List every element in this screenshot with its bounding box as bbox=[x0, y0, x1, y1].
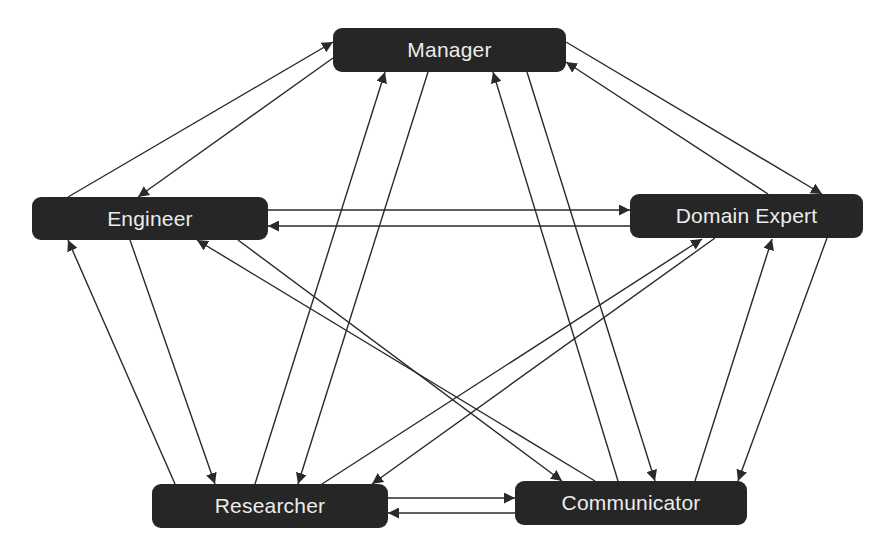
node-manager: Manager bbox=[333, 28, 566, 72]
communication-network-diagram: Manager Engineer Domain Expert Researche… bbox=[0, 0, 888, 556]
node-label-manager: Manager bbox=[407, 38, 491, 62]
edge-domain-expert-to-manager bbox=[566, 62, 768, 194]
node-label-communicator: Communicator bbox=[562, 491, 701, 515]
edge-engineer-to-researcher bbox=[130, 240, 215, 484]
edge-communicator-to-domain-expert bbox=[695, 239, 772, 481]
edge-manager-to-engineer bbox=[138, 58, 333, 197]
edge-manager-to-domain-expert bbox=[566, 42, 822, 194]
edge-researcher-to-manager bbox=[255, 72, 385, 484]
edge-domain-expert-to-communicator bbox=[738, 238, 827, 481]
edge-researcher-to-engineer bbox=[68, 240, 175, 484]
node-communicator: Communicator bbox=[515, 481, 747, 525]
node-label-engineer: Engineer bbox=[107, 207, 193, 231]
edges-layer bbox=[0, 0, 888, 556]
node-researcher: Researcher bbox=[152, 484, 388, 528]
edge-engineer-to-manager bbox=[68, 42, 333, 197]
edge-manager-to-communicator bbox=[527, 72, 655, 481]
edge-domain-expert-to-researcher bbox=[372, 238, 715, 484]
node-label-domain-expert: Domain Expert bbox=[676, 204, 818, 228]
edge-communicator-to-engineer bbox=[197, 240, 595, 481]
edge-communicator-to-manager bbox=[493, 72, 618, 481]
node-domain-expert: Domain Expert bbox=[630, 194, 863, 238]
node-label-researcher: Researcher bbox=[215, 494, 326, 518]
node-engineer: Engineer bbox=[32, 197, 268, 240]
edge-manager-to-researcher bbox=[298, 72, 428, 484]
edge-group bbox=[68, 42, 827, 513]
